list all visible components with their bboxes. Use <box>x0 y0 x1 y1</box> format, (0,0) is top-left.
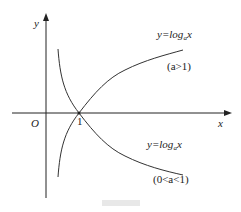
log-function-graph <box>0 0 241 212</box>
y-axis-label: y <box>34 18 39 29</box>
origin-label: O <box>31 118 39 129</box>
lower-formula-suffix: x <box>177 138 182 150</box>
figure-caption-placeholder <box>102 200 140 206</box>
tick-label-one: 1 <box>77 116 83 127</box>
x-axis-label: x <box>218 118 223 129</box>
x-axis-arrow-icon <box>224 110 232 116</box>
lower-formula-prefix: y=log <box>147 138 173 150</box>
lower-curve-condition: (0<a<1) <box>153 174 189 185</box>
upper-formula-suffix: x <box>187 28 192 40</box>
upper-curve-formula: y=logax <box>157 29 192 42</box>
lower-curve-formula: y=logax <box>147 139 182 152</box>
curve-a-between-0-and-1 <box>58 49 183 175</box>
upper-formula-prefix: y=log <box>157 28 183 40</box>
upper-curve-condition: (a>1) <box>167 61 191 72</box>
y-axis-arrow-icon <box>43 13 49 21</box>
